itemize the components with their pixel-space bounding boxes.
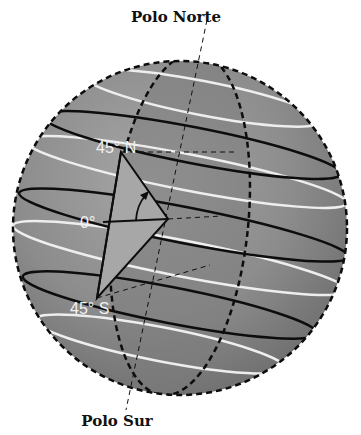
globe-latitude-diagram: Polo Norte Polo Sur 45° N 0° 45° S [0, 0, 361, 435]
south-pole-label: Polo Sur [81, 412, 154, 430]
north-pole-label: Polo Norte [131, 8, 221, 26]
lat-south-label: 45° S [70, 300, 109, 317]
lat-north-label: 45° N [96, 139, 136, 156]
lat-equator-label: 0° [80, 214, 95, 231]
